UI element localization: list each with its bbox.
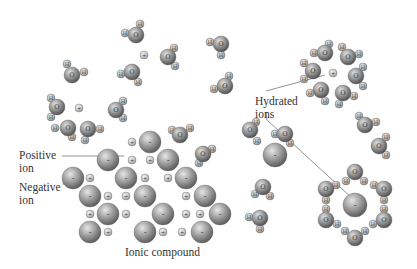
oxygen-atom: O [335, 85, 351, 101]
positive-ion: + [104, 192, 112, 200]
negative-ion: - [194, 185, 216, 207]
svg-text:-: - [204, 192, 207, 201]
svg-text:-: - [125, 174, 128, 183]
positive-ion: + [164, 174, 172, 182]
hydrated-negative-ion: - [263, 143, 287, 167]
svg-text:H: H [82, 69, 87, 75]
hydrogen-atom: H [81, 136, 89, 144]
svg-text:O: O [345, 53, 350, 61]
oxygen-atom: O [318, 181, 334, 197]
oxygen-atom: O [313, 82, 329, 98]
svg-text:H: H [340, 44, 345, 50]
svg-text:H: H [361, 83, 366, 89]
negative-ion: - [175, 167, 197, 189]
svg-text:+: + [180, 229, 184, 235]
svg-text:H: H [138, 21, 143, 27]
hydrogen-atom: H [121, 29, 129, 37]
negative-ion: - [209, 203, 231, 225]
svg-text:H: H [121, 98, 126, 104]
water-molecule: HHO [245, 210, 268, 233]
negative-ion: - [115, 167, 137, 189]
svg-text:-: - [89, 228, 92, 237]
negative-ion: - [79, 185, 101, 207]
positive-ion: + [159, 228, 167, 236]
oxygen-atom: O [60, 120, 76, 136]
negative-ion: - [191, 221, 213, 243]
water-molecule: HHO [206, 36, 229, 59]
oxygen-atom: O [128, 27, 144, 43]
water-molecule: HHO [310, 40, 333, 61]
svg-text:O: O [340, 89, 345, 97]
hydrogen-atom: H [335, 100, 343, 108]
water-molecule: HHO [318, 181, 340, 204]
water-molecule: HHO [210, 72, 233, 94]
svg-text:+: + [331, 70, 335, 76]
svg-text:+: + [148, 157, 152, 163]
hydrogen-atom: H [306, 89, 314, 97]
svg-text:H: H [357, 51, 362, 57]
oxygen-atom: O [64, 67, 80, 83]
hydrated-ions-label-line2: ions [255, 108, 298, 121]
hydrogen-atom: H [360, 177, 368, 185]
svg-text:+: + [184, 193, 188, 199]
svg-text:O: O [352, 234, 357, 242]
hydrogen-atom: H [321, 97, 329, 105]
positive-ion: + [141, 174, 149, 182]
svg-text:H: H [371, 221, 376, 227]
svg-text:-: - [107, 210, 110, 219]
svg-text:O: O [218, 40, 223, 48]
svg-text:O: O [247, 126, 252, 134]
svg-text:H: H [308, 90, 313, 96]
svg-text:+: + [166, 175, 170, 181]
oxygen-atom: O [347, 164, 363, 180]
oxygen-atom: O [80, 121, 96, 137]
water-molecule: HHO [335, 85, 358, 108]
svg-text:H: H [302, 60, 307, 66]
svg-text:H: H [173, 63, 178, 69]
svg-text:H: H [136, 79, 141, 85]
hydrogen-atom: H [310, 49, 318, 57]
svg-text:H: H [352, 93, 357, 99]
hydrated-ions-label-line1: Hydrated [255, 95, 298, 108]
negative-ion: - [134, 221, 156, 243]
svg-text:-: - [89, 192, 92, 201]
svg-text:H: H [337, 101, 342, 107]
svg-text:H: H [212, 86, 217, 92]
hydrogen-atom: H [136, 20, 144, 28]
svg-text:+: + [142, 52, 146, 58]
oxygen-atom: O [305, 63, 321, 79]
water-molecule: HHO [342, 164, 368, 185]
hydrogen-atom: H [359, 82, 367, 90]
svg-text:H: H [255, 138, 260, 144]
svg-text:O: O [222, 82, 227, 90]
svg-text:H: H [188, 125, 193, 131]
water-molecule: HHO [251, 179, 274, 200]
svg-text:H: H [65, 61, 70, 67]
positive-ion: + [86, 174, 94, 182]
svg-text:H: H [268, 193, 273, 199]
svg-text:+: + [88, 175, 92, 181]
hydrogen-atom: H [217, 51, 225, 59]
positive-ion-label-line2: ion [19, 162, 56, 175]
hydrogen-atom: H [350, 92, 358, 100]
positive-ion-label-line1: Positive [19, 149, 56, 162]
svg-text:O: O [353, 72, 358, 80]
svg-text:H: H [302, 76, 307, 82]
oxygen-atom: O [376, 212, 392, 228]
positive-ion: + [86, 210, 94, 218]
negative-ion: - [152, 203, 174, 225]
oxygen-atom: O [217, 78, 233, 94]
svg-text:H: H [362, 178, 367, 184]
svg-text:O: O [200, 150, 205, 158]
svg-text:O: O [65, 124, 70, 132]
svg-text:H: H [374, 119, 379, 125]
oxygen-atom: O [318, 212, 334, 228]
svg-text:H: H [49, 114, 54, 120]
hydrated-positive-ion: + [75, 104, 83, 112]
hydrogen-atom: H [210, 85, 218, 93]
svg-text:-: - [107, 156, 110, 165]
svg-text:-: - [149, 138, 152, 147]
oxygen-atom: O [317, 45, 333, 61]
hydrogen-atom: H [355, 50, 363, 58]
oxygen-atom: O [108, 102, 124, 118]
